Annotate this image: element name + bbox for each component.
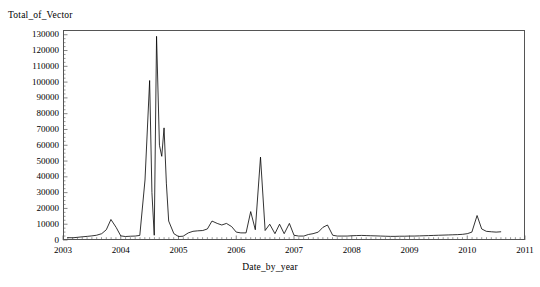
x-tick-label: 2009 bbox=[390, 246, 430, 255]
x-tick-label: 2007 bbox=[274, 246, 314, 255]
chart-canvas bbox=[0, 0, 540, 287]
y-tick-label: 20000 bbox=[3, 204, 59, 213]
y-tick-label: 110000 bbox=[3, 62, 59, 71]
y-tick-label: 120000 bbox=[3, 46, 59, 55]
y-tick-label: 30000 bbox=[3, 188, 59, 197]
x-axis-title: Date_by_year bbox=[0, 262, 540, 272]
y-tick-label: 130000 bbox=[3, 30, 59, 39]
y-tick-label: 80000 bbox=[3, 109, 59, 118]
x-tick-label: 2004 bbox=[101, 246, 141, 255]
y-tick-label: 60000 bbox=[3, 141, 59, 150]
y-tick-label: 70000 bbox=[3, 125, 59, 134]
y-tick-label: 40000 bbox=[3, 172, 59, 181]
y-tick-label: 0 bbox=[3, 236, 59, 245]
x-tick-label: 2006 bbox=[216, 246, 256, 255]
y-tick-label: 100000 bbox=[3, 78, 59, 87]
y-tick-label: 10000 bbox=[3, 220, 59, 229]
x-tick-label: 2010 bbox=[447, 246, 487, 255]
y-tick-label: 90000 bbox=[3, 93, 59, 102]
x-tick-label: 2008 bbox=[332, 246, 372, 255]
y-tick-marks bbox=[63, 35, 68, 240]
y-tick-label: 50000 bbox=[3, 157, 59, 166]
data-line-series bbox=[68, 36, 501, 237]
x-tick-label: 2011 bbox=[505, 246, 540, 255]
x-tick-label: 2003 bbox=[43, 246, 83, 255]
chart-root: Total_of_Vector 010000200003000040000500… bbox=[0, 0, 540, 287]
x-tick-label: 2005 bbox=[159, 246, 199, 255]
